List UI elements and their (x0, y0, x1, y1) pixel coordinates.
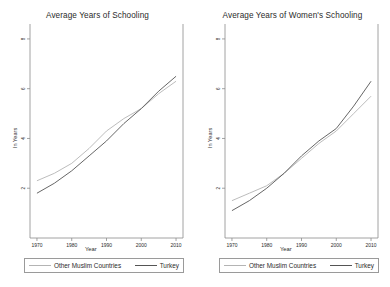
x-tick-label: 1970 (226, 242, 237, 248)
legend: Other Muslim Countries Turkey (24, 258, 184, 273)
x-tick-label: 2010 (170, 242, 181, 248)
y-ticks: 2468 (21, 37, 30, 189)
legend-line-icon-turkey (135, 265, 157, 266)
x-tick-label: 2000 (136, 242, 147, 248)
y-axis-label: In Years (12, 128, 18, 148)
legend-label-other-muslim: Other Muslim Countries (249, 262, 316, 269)
legend-line-icon-turkey (330, 265, 352, 266)
x-tick-label: 1990 (101, 242, 112, 248)
y-tick-label: 6 (216, 87, 221, 90)
x-ticks: 19701980199020002010 (226, 238, 376, 248)
x-tick-label: 1990 (296, 242, 307, 248)
legend-line-icon-other-muslim (224, 265, 246, 266)
y-tick-label: 2 (216, 187, 221, 190)
x-tick-label: 1980 (261, 242, 272, 248)
series-line-turkey (37, 76, 176, 193)
series-line-other-muslim-countries (232, 96, 371, 201)
x-axis-label: Year (85, 246, 97, 252)
x-axis-label: Year (280, 246, 292, 252)
legend-label-turkey: Turkey (355, 262, 374, 269)
x-ticks: 19701980199020002010 (31, 238, 181, 248)
figure-canvas: Average Years of Schooling 2468 19701980… (0, 0, 390, 287)
x-tick-label: 2000 (331, 242, 342, 248)
plot-area-womens-schooling: 2468 19701980199020002010 (195, 0, 390, 287)
legend: Other Muslim Countries Turkey (219, 258, 379, 273)
x-tick-label: 2010 (365, 242, 376, 248)
y-tick-label: 8 (216, 37, 221, 40)
axis-frame (225, 24, 378, 238)
x-tick-label: 1970 (31, 242, 42, 248)
legend-label-other-muslim: Other Muslim Countries (54, 262, 121, 269)
panel-schooling: Average Years of Schooling 2468 19701980… (0, 0, 195, 287)
plot-area-schooling: 2468 19701980199020002010 (0, 0, 195, 287)
legend-entry-other-muslim: Other Muslim Countries (29, 262, 121, 269)
y-tick-label: 4 (21, 137, 26, 140)
legend-label-turkey: Turkey (160, 262, 179, 269)
panel-row: Average Years of Schooling 2468 19701980… (0, 0, 390, 287)
legend-entry-turkey: Turkey (330, 262, 374, 269)
legend-line-icon-other-muslim (29, 265, 51, 266)
series-lines (37, 76, 176, 193)
legend-entry-turkey: Turkey (135, 262, 179, 269)
series-lines (232, 81, 371, 210)
series-line-other-muslim-countries (37, 81, 176, 181)
y-tick-label: 4 (216, 137, 221, 140)
y-ticks: 2468 (216, 37, 225, 189)
panel-womens-schooling: Average Years of Women's Schooling 2468 … (195, 0, 390, 287)
y-tick-label: 6 (21, 87, 26, 90)
x-tick-label: 1980 (66, 242, 77, 248)
series-line-turkey (232, 81, 371, 210)
y-axis-label: In Years (207, 128, 213, 148)
y-tick-label: 2 (21, 187, 26, 190)
legend-entry-other-muslim: Other Muslim Countries (224, 262, 316, 269)
y-tick-label: 8 (21, 37, 26, 40)
